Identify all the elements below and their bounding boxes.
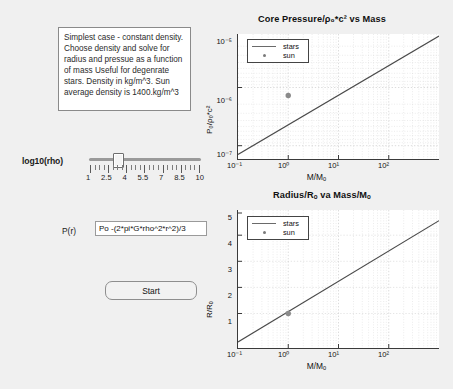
pressure-xtick-label: 10⁻¹ bbox=[227, 161, 242, 170]
sun-data-point bbox=[286, 311, 291, 316]
slider-tick-label: 8.5 bbox=[174, 173, 185, 182]
slider-label: log10(rho) bbox=[22, 156, 63, 166]
pressure-xtick-label: 10⁰ bbox=[278, 161, 289, 170]
pressure-chart-legend: stars sun bbox=[247, 39, 309, 63]
pressure-chart-title: Core Pressure/ρ₀*c² vs Mass bbox=[196, 14, 448, 24]
slider-tick-label: 5.5 bbox=[138, 173, 149, 182]
pressure-plot-area: stars sun bbox=[237, 34, 439, 160]
legend-label-stars: stars bbox=[283, 42, 304, 51]
start-button[interactable]: Start bbox=[105, 281, 197, 300]
stars-line-icon bbox=[252, 46, 277, 47]
radius-ytick-label: 1 bbox=[208, 317, 232, 326]
matlab-gui-window: Simplest case - constant density. Choose… bbox=[0, 0, 453, 389]
radius-ytick-label: 4 bbox=[208, 239, 232, 248]
legend-entry-sun: sun bbox=[252, 51, 304, 60]
radius-chart-title: Radius/Rₒ va Mass/Mₒ bbox=[196, 190, 448, 200]
radius-xtick-label: 10⁻¹ bbox=[227, 350, 242, 359]
pressure-chart-ylabel: P₀/ρ₀*c² bbox=[205, 105, 214, 134]
radius-chart: Radius/Rₒ va Mass/Mₒ R/Rₒ 1 2 3 4 5 bbox=[196, 188, 448, 378]
radius-chart-legend: stars sun bbox=[247, 216, 309, 240]
pressure-ytick-label: 10⁻⁵ bbox=[205, 37, 232, 46]
pressure-field-label: P(r) bbox=[62, 226, 76, 236]
sun-marker-icon bbox=[252, 231, 277, 235]
legend-entry-stars: stars bbox=[252, 42, 304, 51]
pressure-xtick-label: 10¹ bbox=[328, 161, 339, 170]
radius-ytick-label: 3 bbox=[208, 265, 232, 274]
radius-chart-xlabel: M/Mₒ bbox=[216, 361, 417, 371]
description-text-box: Simplest case - constant density. Choose… bbox=[58, 27, 191, 111]
slider-tick-labels: 1 2.5 4 5.5 7 8.5 10 bbox=[86, 173, 204, 182]
slider-tick-label: 2.5 bbox=[101, 173, 112, 182]
slider-tick-label: 7 bbox=[159, 173, 163, 182]
radius-xtick-label: 10¹ bbox=[328, 350, 339, 359]
radius-ytick-label: 5 bbox=[208, 213, 232, 222]
legend-entry-stars: stars bbox=[252, 219, 304, 228]
slider-tick-label: 4 bbox=[123, 173, 127, 182]
radius-xtick-label: 10² bbox=[378, 350, 389, 359]
pressure-xtick-label: 10² bbox=[378, 161, 389, 170]
slider-track[interactable] bbox=[89, 158, 201, 161]
stars-line-icon bbox=[252, 223, 277, 224]
slider-tick-marks bbox=[90, 165, 200, 173]
pressure-ytick-label: 10⁻⁷ bbox=[205, 150, 232, 159]
pressure-chart: Core Pressure/ρ₀*c² vs Mass P₀/ρ₀*c² 10⁻… bbox=[196, 12, 448, 187]
pressure-formula-input[interactable] bbox=[95, 221, 207, 236]
radius-ytick-label: 2 bbox=[208, 291, 232, 300]
sun-marker-icon bbox=[252, 54, 277, 58]
sun-data-point bbox=[286, 93, 291, 98]
radius-chart-ylabel: R/Rₒ bbox=[205, 301, 214, 318]
pressure-ytick-label: 10⁻⁶ bbox=[205, 96, 232, 105]
legend-label-stars: stars bbox=[283, 219, 304, 228]
slider-tick-label: 1 bbox=[86, 173, 90, 182]
legend-label-sun: sun bbox=[283, 51, 304, 60]
radius-plot-area: stars sun bbox=[237, 210, 439, 349]
legend-label-sun: sun bbox=[283, 228, 304, 237]
radius-xtick-label: 10⁰ bbox=[278, 350, 289, 359]
pressure-chart-xlabel: M/Mₒ bbox=[216, 172, 417, 182]
legend-entry-sun: sun bbox=[252, 228, 304, 237]
log10-rho-slider[interactable]: 1 2.5 4 5.5 7 8.5 10 bbox=[89, 148, 201, 184]
